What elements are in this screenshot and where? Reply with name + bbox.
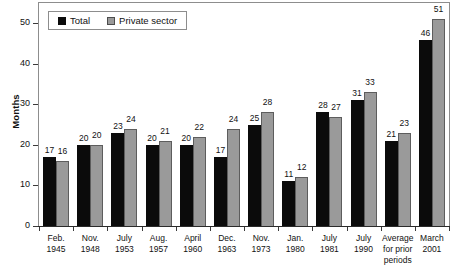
bar-group: 2528 xyxy=(244,3,278,226)
y-tick-label-30: 30 xyxy=(0,98,30,108)
x-tick-mark xyxy=(449,227,450,231)
x-axis-label: March2001 xyxy=(410,233,454,255)
bar-value-label: 11 xyxy=(284,170,293,179)
x-tick-mark xyxy=(381,227,382,231)
bar-group: 1724 xyxy=(210,3,244,226)
bar-private[interactable]: 23 xyxy=(398,133,411,226)
bars-layer: 1716202023242021202217242528111228273133… xyxy=(39,3,449,226)
bar-private[interactable]: 16 xyxy=(56,161,69,226)
y-axis-title: Months xyxy=(10,76,21,148)
bar-private[interactable]: 20 xyxy=(90,145,103,226)
bar-group: 2021 xyxy=(142,3,176,226)
bar-total[interactable]: 20 xyxy=(77,145,90,226)
bar-total[interactable]: 20 xyxy=(180,145,193,226)
bar-group: 2123 xyxy=(381,3,415,226)
bar-private[interactable]: 21 xyxy=(159,141,172,226)
bar-value-label: 17 xyxy=(216,146,225,155)
x-tick-mark xyxy=(244,227,245,231)
bar-total[interactable]: 28 xyxy=(316,112,329,226)
bar-private[interactable]: 24 xyxy=(227,129,240,226)
y-tick-label-0: 0 xyxy=(0,220,30,230)
bar-group: 2022 xyxy=(176,3,210,226)
bar-total[interactable]: 20 xyxy=(146,145,159,226)
x-tick-mark xyxy=(210,227,211,231)
bar-private[interactable]: 22 xyxy=(193,137,206,226)
bar-value-label: 21 xyxy=(387,130,396,139)
bar-total[interactable]: 17 xyxy=(214,157,227,226)
bar-chart: Months 01020304050 Total Private sector … xyxy=(0,0,459,271)
bar-group: 1112 xyxy=(278,3,312,226)
bar-value-label: 28 xyxy=(263,98,272,107)
bar-group: 2020 xyxy=(73,3,107,226)
bar-private[interactable]: 27 xyxy=(329,117,342,226)
x-tick-mark xyxy=(39,227,40,231)
bar-value-label: 17 xyxy=(45,146,54,155)
y-tick-label-50: 50 xyxy=(0,17,30,27)
bar-value-label: 20 xyxy=(79,134,88,143)
x-tick-mark xyxy=(73,227,74,231)
bar-group: 1716 xyxy=(39,3,73,226)
y-tick-label-20: 20 xyxy=(0,139,30,149)
bar-group: 2827 xyxy=(312,3,346,226)
bar-value-label: 28 xyxy=(318,101,327,110)
bar-group: 4651 xyxy=(415,3,449,226)
bar-value-label: 20 xyxy=(182,134,191,143)
bar-group: 2324 xyxy=(107,3,141,226)
bar-total[interactable]: 11 xyxy=(282,181,295,226)
x-tick-mark xyxy=(142,227,143,231)
bar-private[interactable]: 51 xyxy=(432,19,445,226)
bar-value-label: 24 xyxy=(229,115,238,124)
bar-total[interactable]: 25 xyxy=(248,125,261,226)
bar-total[interactable]: 31 xyxy=(351,100,364,226)
bar-total[interactable]: 46 xyxy=(419,40,432,227)
bar-value-label: 25 xyxy=(250,114,259,123)
x-tick-mark xyxy=(107,227,108,231)
bar-value-label: 23 xyxy=(400,119,409,128)
y-tick-label-40: 40 xyxy=(0,58,30,68)
bar-private[interactable]: 24 xyxy=(124,129,137,226)
bar-value-label: 22 xyxy=(195,123,204,132)
bar-group: 3133 xyxy=(347,3,381,226)
y-tick-label-10: 10 xyxy=(0,179,30,189)
bar-value-label: 27 xyxy=(331,103,340,112)
bar-value-label: 23 xyxy=(113,122,122,131)
x-tick-mark xyxy=(415,227,416,231)
x-tick-mark xyxy=(347,227,348,231)
bar-value-label: 33 xyxy=(365,78,374,87)
bar-value-label: 46 xyxy=(421,29,430,38)
x-tick-mark xyxy=(176,227,177,231)
bar-value-label: 20 xyxy=(147,134,156,143)
x-tick-mark xyxy=(312,227,313,231)
bar-value-label: 21 xyxy=(160,127,169,136)
bar-total[interactable]: 23 xyxy=(111,133,124,226)
x-tick-mark xyxy=(278,227,279,231)
bar-value-label: 16 xyxy=(58,147,67,156)
bar-private[interactable]: 12 xyxy=(295,177,308,226)
bar-value-label: 12 xyxy=(297,163,306,172)
bar-value-label: 24 xyxy=(126,115,135,124)
bar-private[interactable]: 33 xyxy=(364,92,377,226)
bar-value-label: 20 xyxy=(92,131,101,140)
bar-value-label: 31 xyxy=(352,89,361,98)
bar-total[interactable]: 17 xyxy=(43,157,56,226)
bar-total[interactable]: 21 xyxy=(385,141,398,226)
bar-private[interactable]: 28 xyxy=(261,112,274,226)
bar-value-label: 51 xyxy=(434,5,443,14)
